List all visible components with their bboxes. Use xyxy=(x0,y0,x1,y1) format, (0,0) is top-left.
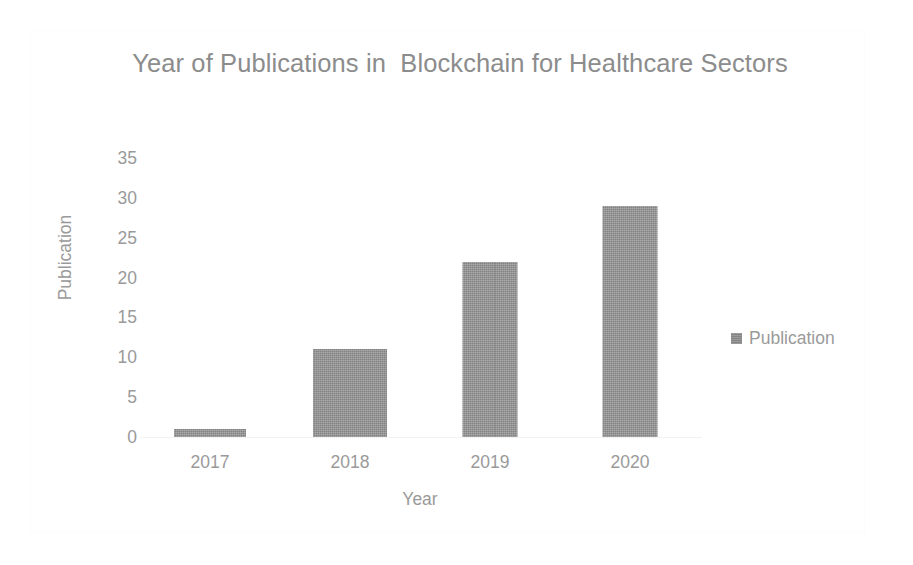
bar-2019[interactable] xyxy=(463,262,518,437)
chart-title-line-2: Sectors xyxy=(701,49,788,77)
x-tick-label-2018: 2018 xyxy=(331,452,370,473)
x-axis-baseline xyxy=(140,437,702,438)
y-tick-label: 15 xyxy=(95,307,137,328)
x-axis-tick-labels: 2017 2018 2019 2020 xyxy=(140,452,700,478)
x-tick-label-2019: 2019 xyxy=(471,452,510,473)
plot-area xyxy=(140,158,700,437)
x-axis-title: Year xyxy=(140,489,700,510)
legend-swatch-icon xyxy=(731,333,742,344)
legend-label-publication: Publication xyxy=(749,328,835,349)
bar-2017[interactable] xyxy=(174,429,246,437)
y-tick-label: 30 xyxy=(95,187,137,208)
bar-chart-figure: Year of Publications in Blockchain for H… xyxy=(0,0,913,565)
y-tick-label: 0 xyxy=(95,427,137,448)
chart-legend: Publication xyxy=(731,328,835,349)
y-tick-label: 35 xyxy=(95,148,137,169)
bar-slot-2018 xyxy=(280,158,420,437)
bar-slot-2020 xyxy=(560,158,700,437)
chart-title-line-1: Year of Publications in Blockchain for H… xyxy=(132,49,693,77)
y-tick-label: 5 xyxy=(95,387,137,408)
bar-slot-2017 xyxy=(140,158,280,437)
y-axis-tick-labels: 35 30 25 20 15 10 5 0 xyxy=(95,158,137,437)
bar-2018[interactable] xyxy=(313,349,387,437)
chart-title: Year of Publications in Blockchain for H… xyxy=(120,44,800,82)
x-tick-label-2020: 2020 xyxy=(611,452,650,473)
bar-slot-2019 xyxy=(420,158,560,437)
y-axis-title: Publication xyxy=(55,188,76,328)
bar-2020[interactable] xyxy=(603,206,658,437)
x-tick-label-2017: 2017 xyxy=(191,452,230,473)
y-tick-label: 25 xyxy=(95,227,137,248)
y-tick-label: 20 xyxy=(95,267,137,288)
y-tick-label: 10 xyxy=(95,347,137,368)
